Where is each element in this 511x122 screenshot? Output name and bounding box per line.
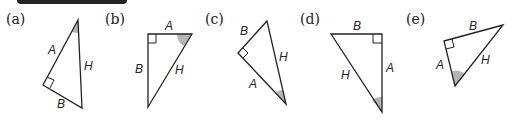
side-label-b: B: [135, 62, 143, 76]
panel-a: (a) A H B: [6, 11, 93, 111]
side-label-b: B: [240, 24, 248, 38]
panel-d: (d) B A H: [300, 11, 394, 112]
panel-label: (c): [205, 11, 224, 27]
side-label-b: B: [353, 19, 361, 33]
triangle: [43, 20, 82, 108]
side-label-a: A: [164, 19, 173, 33]
side-label-h: H: [84, 59, 93, 73]
triangles-figure: (a) A H B (b) A B H (c) B H A (d) B A H: [0, 0, 511, 122]
side-label-h: H: [279, 50, 288, 64]
side-label-h: H: [481, 53, 490, 67]
right-angle-marker: [243, 48, 248, 58]
panel-label: (e): [406, 11, 425, 27]
panel-c: (c) B H A: [205, 11, 288, 104]
triangle: [148, 34, 192, 107]
panel-b: (b) A B H: [105, 11, 192, 107]
shaded-angle: [177, 34, 192, 46]
side-label-h: H: [341, 68, 350, 82]
panel-label: (b): [105, 11, 125, 27]
panel-label: (a): [6, 11, 25, 27]
right-angle-marker: [373, 34, 382, 43]
triangle: [331, 34, 382, 112]
triangle: [444, 25, 503, 86]
side-label-h: H: [175, 63, 184, 77]
right-angle-marker: [148, 34, 156, 43]
side-label-a: A: [248, 77, 257, 91]
side-label-a: A: [435, 58, 444, 72]
panel-e: (e) B A H: [406, 11, 503, 86]
panel-label: (d): [300, 11, 320, 27]
side-label-b: B: [57, 97, 65, 111]
side-label-a: A: [47, 43, 56, 57]
side-label-b: B: [469, 19, 477, 33]
right-angle-marker: [47, 77, 54, 88]
side-label-a: A: [385, 61, 394, 75]
